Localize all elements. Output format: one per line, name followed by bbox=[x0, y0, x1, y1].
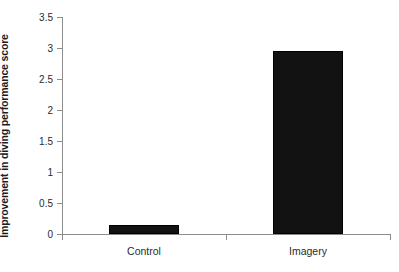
y-axis-tick-label: 3 bbox=[13, 43, 53, 54]
y-axis-tick-label: 1.5 bbox=[13, 136, 53, 147]
y-axis-tick bbox=[57, 48, 62, 49]
y-axis-tick bbox=[57, 17, 62, 18]
y-axis-tick-label: 2 bbox=[13, 105, 53, 116]
bar bbox=[273, 51, 343, 234]
y-axis-tick bbox=[57, 141, 62, 142]
x-axis-category-label: Imagery bbox=[253, 245, 363, 257]
bar bbox=[109, 225, 179, 234]
y-axis-tick-label: 2.5 bbox=[13, 74, 53, 85]
x-axis-tick bbox=[226, 235, 227, 240]
y-axis-tick-label: 3.5 bbox=[13, 12, 53, 23]
bar-chart: Improvement in diving performance score … bbox=[0, 0, 399, 272]
y-axis-tick-label: 0 bbox=[13, 229, 53, 240]
y-axis-tick bbox=[57, 79, 62, 80]
x-axis-tick bbox=[62, 235, 63, 240]
y-axis-tick bbox=[57, 172, 62, 173]
y-axis-tick bbox=[57, 110, 62, 111]
x-axis-tick bbox=[390, 235, 391, 240]
y-axis-tick-label: 1 bbox=[13, 167, 53, 178]
y-axis-tick bbox=[57, 203, 62, 204]
y-axis-tick-label: 0.5 bbox=[13, 198, 53, 209]
x-axis-category-label: Control bbox=[89, 245, 199, 257]
